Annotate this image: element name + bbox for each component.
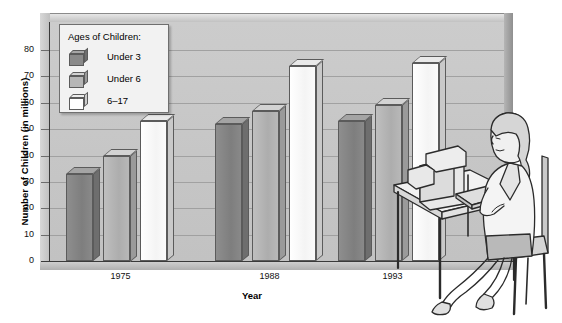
chart-legend: Ages of Children: Under 3Under 66–17	[59, 24, 169, 113]
bar-side-face	[365, 115, 372, 261]
legend-item-label: 6–17	[107, 95, 128, 106]
x-tick-label-1988: 1988	[240, 271, 300, 281]
bar-side-face	[167, 115, 174, 261]
y-tick-mark	[41, 103, 49, 104]
y-tick-mark	[41, 50, 49, 51]
bar-1993-under-3	[338, 114, 365, 261]
y-tick-mark	[41, 208, 49, 209]
bar-1975-under-3	[66, 167, 93, 261]
bar-front-face	[252, 111, 279, 261]
y-tick-mark	[41, 156, 49, 157]
legend-title: Ages of Children:	[68, 31, 141, 42]
bar-1975-under-6	[103, 149, 130, 262]
x-axis-title: Year	[212, 290, 292, 301]
legend-item-under-6: Under 6	[69, 68, 164, 90]
legend-item-6-17: 6–17	[69, 90, 164, 112]
bar-front-face	[338, 121, 365, 261]
bar-1975-6-17	[140, 114, 167, 261]
y-tick-mark	[41, 129, 49, 130]
bar-front-face	[103, 156, 130, 262]
x-tick-label-1975: 1975	[91, 271, 151, 281]
y-tick-mark	[41, 182, 49, 183]
y-axis-title: Number of Children (in millions)	[19, 42, 30, 262]
bar-side-face	[130, 150, 137, 261]
legend-item-label: Under 3	[107, 51, 141, 62]
legend-item-label: Under 6	[107, 73, 141, 84]
bar-front-face	[66, 174, 93, 261]
medium-gray-cube-icon	[69, 72, 88, 87]
y-axis-line	[49, 22, 50, 262]
chart-figure: 01020304050607080 197519881993 Number of…	[0, 0, 562, 323]
y-tick-mark	[41, 235, 49, 236]
bar-side-face	[316, 60, 323, 261]
white-cube-icon	[69, 94, 88, 109]
bar-1988-6-17	[289, 59, 316, 261]
bar-1988-under-3	[215, 117, 242, 261]
bar-front-face	[140, 121, 167, 261]
bar-front-face	[289, 66, 316, 261]
bar-side-face	[279, 105, 286, 261]
woman-at-computer-desk-illustration	[392, 108, 562, 323]
bar-side-face	[242, 118, 249, 261]
bar-1988-under-6	[252, 104, 279, 261]
dark-gray-cube-icon	[69, 50, 88, 65]
y-tick-mark	[41, 76, 49, 77]
legend-item-under-3: Under 3	[69, 46, 164, 68]
bar-front-face	[215, 124, 242, 261]
bar-side-face	[93, 168, 100, 261]
